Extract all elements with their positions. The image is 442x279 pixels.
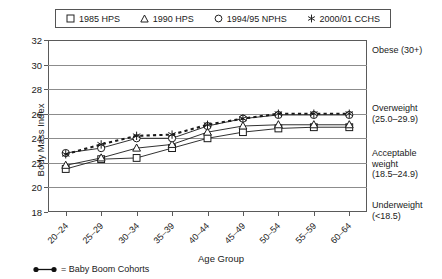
annotation-underweight: Underweight (<18.5) [372, 200, 423, 221]
legend-item-3: 2000/01 CCHS [307, 14, 381, 24]
data-point-0-2 [133, 155, 140, 162]
data-point-0-5 [240, 129, 247, 136]
legend-item-1: 1990 HPS [140, 14, 194, 24]
x-tick-label-6: 50–54 [258, 221, 283, 246]
chart-plot-area: 1820222426283032 20–2425–2930–3435–3940–… [48, 40, 367, 212]
y-tick-label-28: 28 [31, 84, 42, 95]
triangle-marker-icon [140, 14, 149, 23]
x-tick-mark-2 [137, 212, 138, 216]
legend-label-2: 1994/95 NPHS [227, 14, 287, 24]
x-tick-label-0: 20–24 [45, 221, 70, 246]
y-tick-label-18: 18 [31, 207, 42, 218]
y-tick-label-26: 26 [31, 108, 42, 119]
x-tick-mark-1 [101, 212, 102, 216]
annotation-obese: Obese (30+) [372, 45, 422, 56]
legend-item-2: 1994/95 NPHS [214, 14, 287, 24]
legend-label-3: 2000/01 CCHS [320, 14, 381, 24]
annotation-acceptable: Acceptable weight (18.5–24.9) [372, 148, 418, 180]
baby-boom-line-icon [33, 265, 57, 274]
x-tick-label-5: 45–49 [222, 221, 247, 246]
asterisk-marker-icon [307, 14, 316, 23]
x-tick-label-3: 35–39 [152, 221, 177, 246]
data-point-1-5 [239, 122, 247, 129]
y-tick-label-20: 20 [31, 182, 42, 193]
annotation-overweight: Overweight (25.0–29.9) [372, 103, 418, 124]
x-tick-mark-0 [66, 212, 67, 216]
x-tick-label-1: 25–29 [81, 221, 106, 246]
x-tick-label-7: 55–59 [293, 221, 318, 246]
legend-item-0: 1985 HPS [66, 14, 120, 24]
data-series-layer [48, 40, 367, 212]
y-tick-label-24: 24 [31, 133, 42, 144]
x-tick-label-2: 30–34 [116, 221, 141, 246]
footnote-label: = Baby Boom Cohorts [61, 264, 149, 274]
x-tick-mark-6 [278, 212, 279, 216]
x-tick-label-4: 40–44 [187, 221, 212, 246]
x-tick-mark-3 [172, 212, 173, 216]
legend-label-1: 1990 HPS [153, 14, 194, 24]
x-axis-title: Age Group [0, 253, 442, 264]
y-tick-label-32: 32 [31, 35, 42, 46]
y-tick-label-30: 30 [31, 59, 42, 70]
chart-legend: 1985 HPS 1990 HPS 1994/95 NPHS 2000/01 C… [55, 9, 391, 28]
x-tick-label-8: 60–64 [329, 221, 354, 246]
y-tick-label-22: 22 [31, 157, 42, 168]
x-tick-mark-5 [243, 212, 244, 216]
legend-label-0: 1985 HPS [79, 14, 120, 24]
x-tick-mark-8 [349, 212, 350, 216]
square-marker-icon [66, 14, 75, 23]
y-tick-mark-18 [44, 212, 48, 213]
data-point-0-4 [204, 135, 211, 142]
x-tick-mark-7 [314, 212, 315, 216]
x-tick-mark-4 [208, 212, 209, 216]
footnote: = Baby Boom Cohorts [33, 264, 149, 274]
data-point-1-6 [274, 121, 282, 128]
circle-marker-icon [214, 14, 223, 23]
